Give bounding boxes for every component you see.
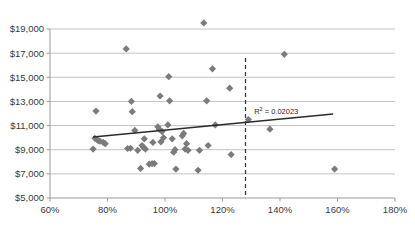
y-tick-label-0: $5,000 (15, 192, 44, 203)
y-tick-label-5: $15,000 (10, 72, 44, 83)
y-axis: $5,000$7,000$9,000$11,000$13,000$15,000$… (10, 23, 50, 203)
data-point (128, 98, 135, 105)
x-tick-label-1: 80% (98, 204, 118, 215)
data-point (331, 165, 338, 172)
data-point (281, 51, 288, 58)
data-point (141, 135, 148, 142)
data-point (164, 121, 171, 128)
data-point (149, 139, 156, 146)
x-tick-label-4: 140% (268, 204, 293, 215)
y-tick-label-7: $19,000 (10, 23, 44, 34)
y-tick-label-1: $7,000 (15, 168, 44, 179)
x-tick-label-3: 120% (210, 204, 235, 215)
data-point (228, 151, 235, 158)
data-point (166, 97, 173, 104)
data-point (90, 146, 97, 153)
x-tick-label-0: 60% (40, 204, 60, 215)
annotation-r-squared: R2 = 0.02023 (254, 106, 298, 116)
data-point (200, 19, 207, 26)
data-point (205, 142, 212, 149)
gridlines (50, 29, 395, 198)
y-tick-label-4: $13,000 (10, 96, 44, 107)
data-point (169, 135, 176, 142)
data-point (92, 107, 99, 114)
data-point (266, 126, 273, 133)
x-tick-label-6: 180% (383, 204, 408, 215)
y-tick-label-2: $9,000 (15, 144, 44, 155)
data-point (183, 140, 190, 147)
chart-canvas: $5,000$7,000$9,000$11,000$13,000$15,000$… (0, 0, 415, 226)
x-axis: 60%80%100%120%140%160%180% (40, 198, 407, 215)
x-tick-label-2: 100% (153, 204, 178, 215)
data-points (90, 19, 339, 173)
data-point (137, 165, 144, 172)
data-point (123, 45, 130, 52)
y-tick-label-6: $17,000 (10, 48, 44, 59)
data-point (157, 92, 164, 99)
data-point (165, 73, 172, 80)
data-point (196, 147, 203, 154)
data-point (134, 147, 141, 154)
y-tick-label-3: $11,000 (10, 120, 44, 131)
data-point (194, 167, 201, 174)
data-point (172, 165, 179, 172)
data-point (129, 108, 136, 115)
data-point (209, 65, 216, 72)
data-point (203, 97, 210, 104)
x-tick-label-5: 160% (325, 204, 350, 215)
data-point (226, 85, 233, 92)
scatter-chart: $5,000$7,000$9,000$11,000$13,000$15,000$… (0, 0, 415, 226)
